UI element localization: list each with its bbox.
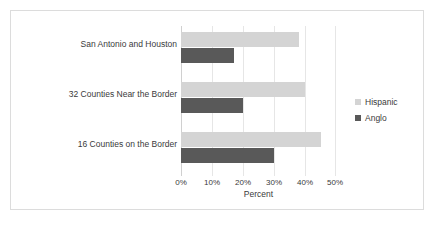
gridline-40 — [305, 26, 306, 176]
x-tick-30: 30% — [266, 178, 282, 187]
bar-hispanic-32-counties-near-the-border[interactable] — [181, 82, 305, 97]
plot-area — [181, 26, 336, 176]
bar-hispanic-san-antonio-and-houston[interactable] — [181, 32, 299, 47]
chart-container: San Antonio and Houston 32 Counties Near… — [10, 10, 424, 210]
x-tick-10: 10% — [204, 178, 220, 187]
category-axis-labels: San Antonio and Houston 32 Counties Near… — [11, 26, 177, 176]
x-tick-40: 40% — [297, 178, 313, 187]
bar-hispanic-16-counties-on-the-border[interactable] — [181, 132, 321, 147]
bar-anglo-32-counties-near-the-border[interactable] — [181, 98, 243, 113]
x-axis-title: Percent — [181, 189, 336, 199]
legend-item-anglo[interactable]: Anglo — [355, 113, 421, 123]
bar-anglo-16-counties-on-the-border[interactable] — [181, 148, 274, 163]
x-tick-20: 20% — [235, 178, 251, 187]
legend-label-anglo: Anglo — [365, 113, 387, 123]
legend-item-hispanic[interactable]: Hispanic — [355, 97, 421, 107]
x-tick-50: 50% — [327, 178, 343, 187]
x-tick-0: 0% — [175, 178, 187, 187]
legend-swatch-anglo-icon — [355, 115, 361, 121]
category-label-16-counties-on-the-border: 16 Counties on the Border — [17, 139, 177, 149]
category-label-san-antonio-and-houston: San Antonio and Houston — [17, 39, 177, 49]
legend-label-hispanic: Hispanic — [365, 97, 398, 107]
legend-swatch-hispanic-icon — [355, 99, 361, 105]
gridline-50 — [335, 26, 336, 176]
bar-anglo-san-antonio-and-houston[interactable] — [181, 48, 234, 63]
chart-legend: Hispanic Anglo — [355, 97, 421, 129]
category-label-32-counties-near-the-border: 32 Counties Near the Border — [17, 89, 177, 99]
gridline-30 — [274, 26, 275, 176]
